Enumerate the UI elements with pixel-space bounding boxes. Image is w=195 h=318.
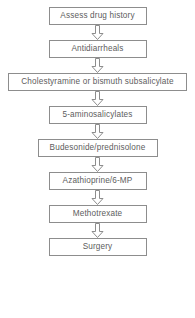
flow-node-label: Assess drug history <box>60 12 134 20</box>
flow-connector-7 <box>91 223 104 238</box>
flow-node-step-1: Assess drug history <box>49 7 147 25</box>
flow-connector-3 <box>91 91 104 106</box>
flow-node-step-5: Budesonide/prednisolone <box>38 139 158 157</box>
flow-connector-5 <box>91 157 104 172</box>
flow-connector-4 <box>91 124 104 139</box>
arrow-down-hollow-icon <box>91 124 104 139</box>
flow-node-label: Methotrexate <box>73 210 123 218</box>
flow-node-label: Antidiarrheals <box>71 45 123 53</box>
flowchart-diagram: Assess drug history Antidiarrheals Chole… <box>0 0 195 318</box>
arrow-down-hollow-icon <box>91 223 104 238</box>
arrow-down-hollow-icon <box>91 91 104 106</box>
flow-node-step-2: Antidiarrheals <box>49 40 147 58</box>
arrow-down-hollow-icon <box>91 58 104 73</box>
flow-connector-1 <box>91 25 104 40</box>
flow-node-label: Surgery <box>83 243 113 251</box>
flow-node-label: Budesonide/prednisolone <box>50 144 146 152</box>
flow-node-step-6: Azathioprine/6-MP <box>49 172 147 190</box>
arrow-down-hollow-icon <box>91 25 104 40</box>
arrow-down-hollow-icon <box>91 190 104 205</box>
flow-node-step-8: Surgery <box>49 238 147 256</box>
flow-node-step-4: 5-aminosalicylates <box>49 106 147 124</box>
flow-connector-6 <box>91 190 104 205</box>
flow-node-label: 5-aminosalicylates <box>62 111 132 119</box>
flow-node-label: Azathioprine/6-MP <box>63 177 133 185</box>
flow-node-label: Cholestyramine or bismuth subsalicylate <box>21 78 173 86</box>
arrow-down-hollow-icon <box>91 157 104 172</box>
flow-connector-2 <box>91 58 104 73</box>
flow-node-step-7: Methotrexate <box>49 205 147 223</box>
flow-node-step-3: Cholestyramine or bismuth subsalicylate <box>8 73 187 91</box>
